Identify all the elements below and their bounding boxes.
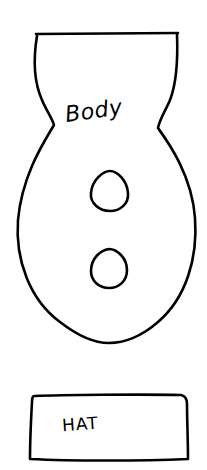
body-outline [18,34,196,343]
hat-piece [30,395,188,461]
body-top-edge [36,33,178,34]
template-canvas [0,0,207,470]
lower-button-hole [91,249,127,288]
upper-button-hole [91,171,128,211]
hat-label: HAT [61,413,99,435]
body-piece [18,33,196,343]
